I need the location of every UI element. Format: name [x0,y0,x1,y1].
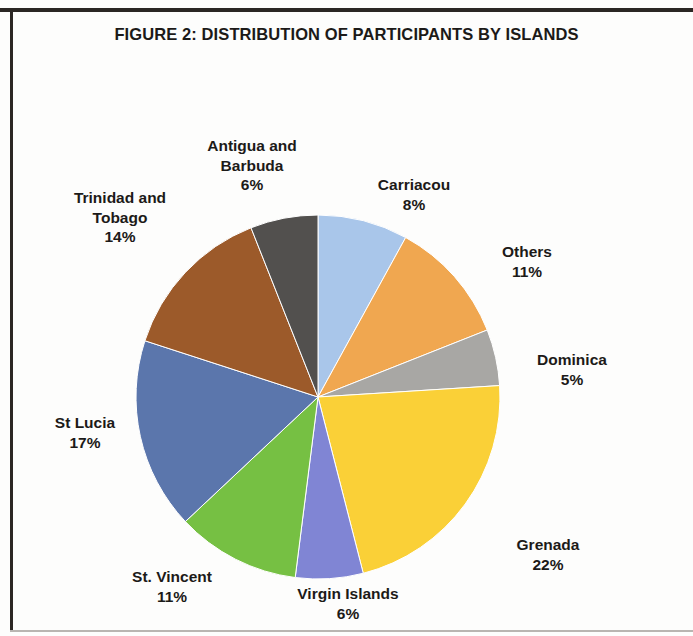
pie-label-virgin-islands: Virgin Islands 6% [258,564,438,636]
pie-label-st-vincent: St. Vincent 11% [92,547,252,626]
pie-label-st-lucia-percent: 17% [12,433,158,453]
figure-container: FIGURE 2: DISTRIBUTION OF PARTICIPANTS B… [0,0,693,636]
pie-label-grenada-name: Grenada [517,536,580,553]
pie-label-others-name: Others [502,243,552,260]
pie-label-grenada-percent: 22% [468,555,628,575]
pie-label-st-lucia: St Lucia 17% [12,393,158,472]
pie-label-carriacou-name: Carriacou [378,176,450,193]
pie-label-trinidad-and-tobago-name: Trinidad and Tobago [74,189,166,226]
pie-label-others-percent: 11% [452,262,602,282]
pie-label-st-lucia-name: St Lucia [55,414,115,431]
figure-title: FIGURE 2: DISTRIBUTION OF PARTICIPANTS B… [0,25,693,44]
pie-chart [136,215,500,579]
pie-label-carriacou-percent: 8% [334,195,494,215]
pie-label-dominica: Dominica 5% [492,330,652,409]
top-rule-divider [0,8,693,12]
left-frame-border [10,10,13,630]
pie-label-trinidad-and-tobago-percent: 14% [36,227,204,247]
pie-label-others: Others 11% [452,222,602,301]
pie-label-virgin-islands-name: Virgin Islands [297,585,398,602]
pie-label-virgin-islands-percent: 6% [258,604,438,624]
pie-label-grenada: Grenada 22% [468,515,628,594]
pie-label-st-vincent-percent: 11% [92,587,252,607]
pie-slice-group [136,215,500,579]
pie-label-dominica-percent: 5% [492,370,652,390]
pie-label-st-vincent-name: St. Vincent [132,568,212,585]
pie-label-trinidad-and-tobago: Trinidad and Tobago 14% [36,168,204,267]
pie-label-antigua-and-barbuda-name: Antigua and Barbuda [207,137,297,174]
pie-label-dominica-name: Dominica [537,351,607,368]
pie-chart-svg [136,215,500,579]
